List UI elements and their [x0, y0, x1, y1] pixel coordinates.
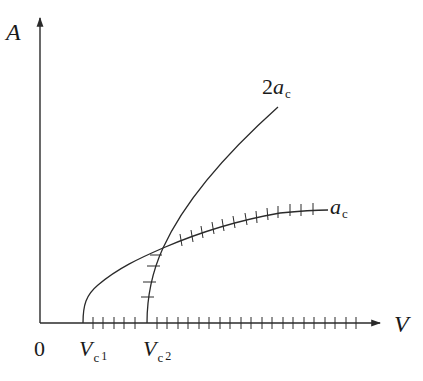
- curve-ac-var: a: [330, 194, 341, 219]
- origin-label: 0: [34, 338, 45, 360]
- curve-2ac-coef: 2: [262, 74, 273, 99]
- curve-ac-sub: c: [342, 206, 348, 221]
- vc1-sub: c: [93, 350, 99, 365]
- vc2-index: 2: [165, 349, 171, 363]
- curve-2ac-label: 2ac: [262, 76, 291, 98]
- curve-ac-hatching: [180, 203, 313, 246]
- vc2-label: Vc2: [143, 338, 171, 360]
- vc1-index: 1: [101, 349, 107, 363]
- curve-2ac-hatching: [141, 255, 162, 297]
- x-axis-label: V: [394, 312, 409, 336]
- vc1-symbol: V: [79, 336, 92, 361]
- vc2-sub: c: [157, 350, 163, 365]
- curve-ac-label: ac: [330, 196, 348, 218]
- vc2-symbol: V: [143, 336, 156, 361]
- y-axis-label: A: [6, 20, 21, 44]
- curve-2ac-var: a: [273, 74, 284, 99]
- vc1-label: Vc1: [79, 338, 107, 360]
- curve-2ac: [147, 107, 278, 323]
- curve-ac: [83, 210, 328, 323]
- bifurcation-diagram: [0, 0, 423, 381]
- curve-2ac-sub: c: [285, 86, 291, 101]
